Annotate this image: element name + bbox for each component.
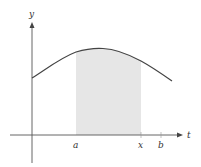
x-axis-arrow-icon xyxy=(177,133,183,138)
tick-label-x: x xyxy=(138,140,143,150)
x-axis-label: t xyxy=(187,130,191,140)
tick-label-b: b xyxy=(158,140,164,150)
tick-label-a: a xyxy=(73,140,78,150)
y-axis-arrow-icon xyxy=(30,22,35,28)
shaded-area xyxy=(76,48,141,135)
y-axis-label: y xyxy=(28,9,35,19)
area-under-curve-diagram: y t a x b xyxy=(0,0,201,167)
